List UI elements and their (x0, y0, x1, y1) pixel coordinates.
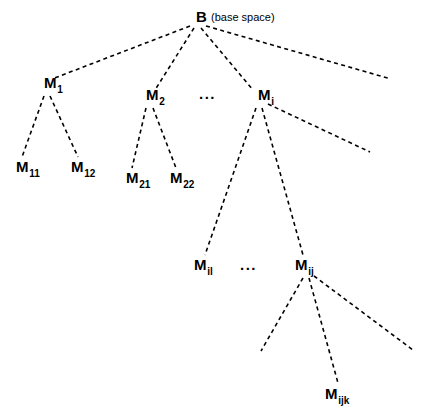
node-base-label: M (194, 256, 207, 273)
tree-edge (314, 276, 413, 350)
tree-node-M22: M22 (170, 169, 195, 190)
tree-edge (268, 104, 370, 152)
tree-node-M12: M12 (71, 158, 96, 179)
tree-node-M1: M1 (44, 74, 63, 95)
tree-node-M2: M2 (146, 86, 165, 107)
node-subscript-label: 1 (57, 84, 63, 95)
node-base-label: M (295, 256, 308, 273)
node-base-label: M (258, 86, 271, 103)
tree-edge (262, 108, 303, 255)
node-subscript-label: 22 (183, 179, 195, 190)
tree-edge (153, 108, 176, 168)
node-subscript-label: ijk (338, 395, 350, 406)
node-base-label: M (325, 385, 338, 402)
tree-node-Mi: Mi (258, 86, 274, 107)
tree-diagram-canvas: BM1M2MiM11M12M21M22MilMijMijk (base spac… (0, 0, 423, 416)
edge-layer (22, 26, 413, 383)
tree-edge (22, 96, 44, 157)
tree-edge (132, 108, 146, 168)
node-subscript-label: i (271, 96, 274, 107)
node-base-label: M (16, 158, 29, 175)
tree-edge (205, 108, 256, 255)
tree-diagram: BM1M2MiM11M12M21M22MilMijMijk (base spac… (0, 0, 423, 416)
tree-node-M21: M21 (126, 169, 151, 190)
node-base-label: M (170, 169, 183, 186)
tree-edge (261, 278, 303, 351)
tree-node-Mijk: Mijk (325, 385, 350, 406)
tree-edge (52, 26, 190, 79)
node-subscript-label: 12 (84, 168, 96, 179)
node-base-label: M (71, 158, 84, 175)
base-space-annotation: (base space) (211, 11, 275, 23)
node-subscript-label: 2 (159, 96, 165, 107)
node-base-label: M (126, 169, 139, 186)
node-subscript-label: il (207, 266, 213, 277)
node-subscript-label: ij (308, 266, 314, 277)
node-base-label: M (146, 86, 159, 103)
ellipsis-level-1: ... (199, 85, 216, 102)
tree-edge (309, 278, 338, 383)
ellipsis-level-2: ... (240, 256, 257, 273)
tree-node-Mij: Mij (295, 256, 314, 277)
tree-node-M11: M11 (16, 158, 40, 179)
tree-node-B: B (196, 8, 207, 25)
node-subscript-label: 21 (139, 179, 151, 190)
node-subscript-label: 11 (29, 168, 40, 179)
tree-node-Mil: Mil (194, 256, 213, 277)
annotation-layer: (base space)...... (199, 11, 275, 273)
node-base-label: B (196, 8, 207, 25)
node-base-label: M (44, 74, 57, 91)
node-layer: BM1M2MiM11M12M21M22MilMijMijk (16, 8, 350, 406)
tree-edge (206, 26, 391, 79)
tree-edge (50, 96, 78, 157)
